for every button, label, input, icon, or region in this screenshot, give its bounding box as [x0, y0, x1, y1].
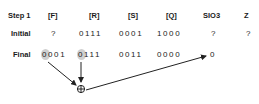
xor-icon: [77, 85, 84, 92]
xor-arrows: [0, 0, 259, 104]
arrow-xor-to-sio3: [86, 56, 206, 90]
arrow-f-to-xor: [48, 62, 76, 85]
